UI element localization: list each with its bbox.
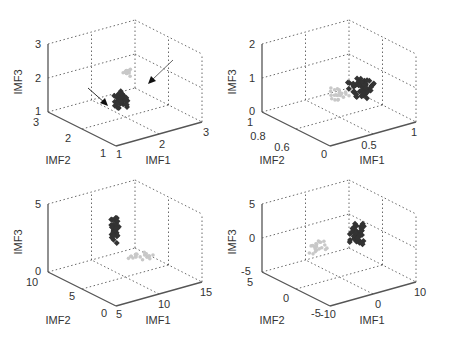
tick-label: 0.6 xyxy=(274,141,289,153)
xaxis-label: IMF1 xyxy=(359,154,384,166)
series-class-light xyxy=(308,239,329,255)
subplot-top-left: 321321123IMF3IMF2IMF1 xyxy=(12,20,209,166)
tick-label: -10 xyxy=(320,308,336,320)
tick-label: 5 xyxy=(249,198,255,210)
tick-label: 1 xyxy=(411,126,417,138)
zaxis-label: IMF3 xyxy=(226,69,238,94)
tick-labels: 50105051015 xyxy=(26,198,212,320)
yaxis-label: IMF2 xyxy=(45,314,70,326)
tick-label: 0.8 xyxy=(250,130,265,142)
tick-label: 2 xyxy=(249,38,255,50)
tick-label: 0 xyxy=(249,232,255,244)
zaxis-label: IMF3 xyxy=(226,229,238,254)
tick-label: 3 xyxy=(203,126,209,138)
tick-label: 10 xyxy=(414,286,426,298)
xaxis-label: IMF1 xyxy=(145,314,170,326)
tick-label: 15 xyxy=(200,286,212,298)
tick-label: 2 xyxy=(159,138,165,150)
series-class-light xyxy=(121,68,132,78)
figure: 321321123IMF3IMF2IMF121010.80.600.51IMF3… xyxy=(0,0,450,343)
xaxis-label: IMF1 xyxy=(359,314,384,326)
series-class-dark xyxy=(108,215,122,246)
tick-label: 0 xyxy=(321,148,327,160)
yaxis-label: IMF2 xyxy=(259,314,284,326)
tick-label: 5 xyxy=(116,308,122,320)
grid-lines xyxy=(262,180,416,294)
tick-label: 2 xyxy=(65,132,71,144)
zaxis-label: IMF3 xyxy=(12,69,24,94)
tick-label: 3 xyxy=(33,116,39,128)
tick-label: 1 xyxy=(116,148,122,160)
zaxis-label: IMF3 xyxy=(12,229,24,254)
tick-label: 0.5 xyxy=(361,139,376,151)
tick-label: 0 xyxy=(375,298,381,310)
tick-label: 10 xyxy=(158,298,170,310)
series-class-dark xyxy=(347,221,367,248)
tick-label: 5 xyxy=(69,290,75,302)
axes xyxy=(262,204,416,306)
yaxis-label: IMF2 xyxy=(259,154,284,166)
tick-label: 5 xyxy=(247,276,253,288)
scatter-points xyxy=(308,221,367,256)
tick-label: 10 xyxy=(26,276,38,288)
subplots: 321321123IMF3IMF2IMF121010.80.600.51IMF3… xyxy=(12,20,426,326)
scatter-points xyxy=(108,215,155,262)
subplot-bottom-left: 50105051015IMF3IMF2IMF1 xyxy=(12,180,212,326)
tick-label: 3 xyxy=(35,38,41,50)
subplot-bottom-right: 50-550-5-10010IMF3IMF2IMF1 xyxy=(226,180,426,326)
tick-label: 2 xyxy=(35,72,41,84)
tick-labels: 50-550-5-10010 xyxy=(241,198,426,320)
grid-lines xyxy=(48,20,202,134)
series-class-light xyxy=(127,251,155,262)
tick-label: 1 xyxy=(100,147,106,159)
tick-label: 5 xyxy=(35,198,41,210)
yaxis-label: IMF2 xyxy=(45,154,70,166)
tick-label: 1 xyxy=(249,72,255,84)
grid-lines xyxy=(48,180,202,294)
subplot-top-right: 21010.80.600.51IMF3IMF2IMF1 xyxy=(226,20,417,166)
tick-label: 1 xyxy=(247,116,253,128)
scatter-points xyxy=(329,76,377,102)
series-class-dark xyxy=(111,88,130,111)
xaxis-label: IMF1 xyxy=(145,154,170,166)
tick-label: 0 xyxy=(101,307,107,319)
grid-lines xyxy=(262,20,416,134)
tick-label: 0 xyxy=(283,292,289,304)
